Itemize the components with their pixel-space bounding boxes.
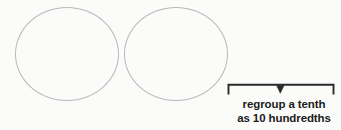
empty-circle-left [15,7,119,101]
annotation-line-2: as 10 hundredths [228,112,340,126]
empty-circle-right [124,7,228,101]
annotation-line-1: regroup a tenth [228,98,340,112]
regroup-bracket-icon [226,80,336,98]
worksheet-figure: regroup a tenth as 10 hundredths [0,0,341,130]
